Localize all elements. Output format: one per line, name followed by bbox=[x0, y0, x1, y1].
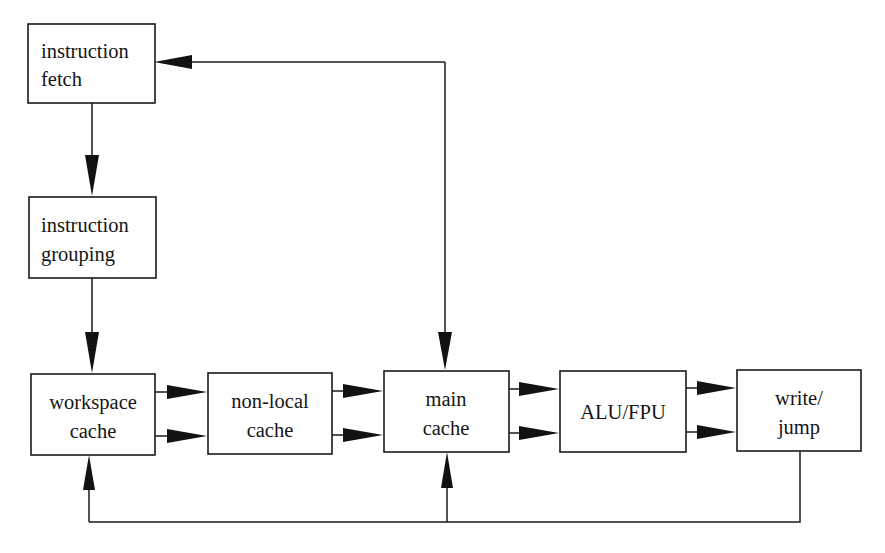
node-label-main-cache-line2: cache bbox=[423, 417, 470, 439]
node-write-jump[interactable]: write/ jump bbox=[737, 370, 861, 451]
arrowhead-down-fetch-to-grouping bbox=[85, 155, 99, 196]
node-label-alu-fpu-line1: ALU/FPU bbox=[580, 401, 666, 423]
node-label-write-jump-line1: write/ bbox=[775, 387, 823, 409]
block-diagram: instruction fetch instruction grouping w… bbox=[0, 0, 885, 553]
arrowhead-left-branch-feedback-to-fetch bbox=[154, 55, 192, 69]
arrowhead-up-writeback-to-main-cache bbox=[441, 452, 453, 488]
node-label-instruction-grouping-line2: grouping bbox=[41, 243, 115, 266]
node-instruction-grouping[interactable]: instruction grouping bbox=[29, 197, 156, 278]
node-box-write-jump[interactable] bbox=[737, 370, 861, 451]
node-box-workspace-cache[interactable] bbox=[31, 374, 155, 455]
node-label-non-local-cache-line2: cache bbox=[247, 419, 294, 441]
arrowhead-up-writeback-to-workspace bbox=[83, 455, 95, 490]
node-alu-fpu[interactable]: ALU/FPU bbox=[560, 371, 686, 452]
node-box-non-local-cache[interactable] bbox=[208, 373, 332, 454]
edge-main-to-alu-lower bbox=[509, 426, 559, 440]
arrowhead-down-grouping-to-workspace bbox=[85, 332, 99, 373]
edge-branch-feedback-to-fetch bbox=[154, 55, 445, 69]
edge-fetch-to-grouping bbox=[85, 103, 99, 196]
node-label-workspace-cache-line1: workspace bbox=[49, 391, 137, 414]
node-main-cache[interactable]: main cache bbox=[384, 371, 509, 452]
edge-alu-to-write-lower bbox=[686, 425, 736, 439]
edge-branch-feedback-to-main-cache bbox=[438, 62, 452, 370]
node-non-local-cache[interactable]: non-local cache bbox=[208, 373, 332, 454]
arrowhead-right-workspace-to-nonlocal-lower bbox=[167, 429, 207, 443]
arrowhead-right-main-to-alu-lower bbox=[519, 426, 559, 440]
edge-nonlocal-to-main-lower bbox=[332, 428, 383, 442]
node-label-instruction-fetch-line1: instruction bbox=[41, 40, 129, 62]
diagram-canvas: instruction fetch instruction grouping w… bbox=[0, 0, 885, 553]
edge-workspace-to-nonlocal-lower bbox=[155, 429, 207, 443]
edge-nonlocal-to-main-upper bbox=[332, 384, 383, 398]
edge-grouping-to-workspace bbox=[85, 278, 99, 373]
node-box-instruction-grouping[interactable] bbox=[29, 197, 156, 278]
arrowhead-right-workspace-to-nonlocal-upper bbox=[167, 385, 207, 399]
node-box-instruction-fetch[interactable] bbox=[28, 24, 155, 103]
arrowhead-down-branch-feedback-to-main-cache bbox=[438, 332, 452, 370]
node-label-workspace-cache-line2: cache bbox=[70, 420, 117, 442]
edge-writeback-to-workspace bbox=[83, 455, 95, 522]
edge-alu-to-write-upper bbox=[686, 381, 736, 395]
arrowhead-right-nonlocal-to-main-lower bbox=[343, 428, 383, 442]
node-label-instruction-grouping-line1: instruction bbox=[41, 214, 129, 236]
node-label-non-local-cache-line1: non-local bbox=[231, 390, 309, 412]
node-label-write-jump-line2: jump bbox=[777, 416, 820, 439]
edge-writeback-to-main-cache bbox=[441, 452, 453, 522]
arrowhead-right-main-to-alu-upper bbox=[519, 382, 559, 396]
node-label-main-cache-line1: main bbox=[426, 388, 467, 410]
edge-main-to-alu-upper bbox=[509, 382, 559, 396]
node-box-main-cache[interactable] bbox=[384, 371, 509, 452]
edge-workspace-to-nonlocal-upper bbox=[155, 385, 207, 399]
node-label-instruction-fetch-line2: fetch bbox=[41, 68, 82, 90]
node-workspace-cache[interactable]: workspace cache bbox=[31, 374, 155, 455]
arrowhead-right-alu-to-write-lower bbox=[697, 425, 736, 439]
node-instruction-fetch[interactable]: instruction fetch bbox=[28, 24, 155, 103]
arrowhead-right-alu-to-write-upper bbox=[697, 381, 736, 395]
arrowhead-right-nonlocal-to-main-upper bbox=[343, 384, 383, 398]
